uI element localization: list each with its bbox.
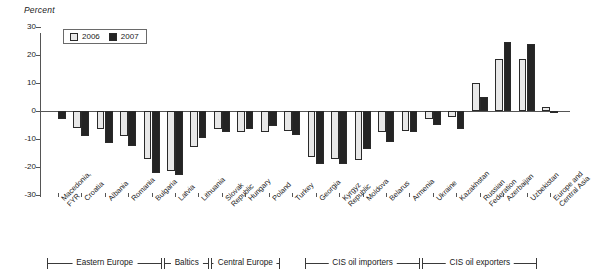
group-bracket-cap-left — [305, 258, 306, 269]
group-bracket-label: CIS oil exporters — [446, 257, 515, 269]
y-tick-mark — [36, 55, 41, 56]
legend-item-2006: 2006 — [70, 33, 100, 41]
group-bracket-cap-right — [279, 258, 280, 269]
y-tick-label: -20 — [24, 163, 36, 171]
group-bracket: CIS oil importers — [305, 256, 420, 272]
group-bracket: Baltics — [164, 256, 209, 272]
legend-item-2007: 2007 — [109, 33, 139, 41]
group-bracket-cap-right — [161, 258, 162, 269]
y-axis-tick-labels: 3020100-10-20-30 — [14, 33, 36, 197]
bar — [120, 111, 128, 136]
bar — [519, 59, 527, 111]
bar — [316, 111, 324, 164]
bar — [542, 107, 550, 111]
bar — [128, 111, 136, 146]
group-bracket-label: Central Europe — [214, 257, 277, 269]
bar — [152, 111, 160, 173]
group-bracket-cap-right — [536, 258, 537, 269]
bar — [550, 111, 558, 113]
bar — [448, 111, 456, 117]
bar — [73, 111, 81, 128]
bar — [269, 111, 277, 126]
y-axis-line — [40, 33, 41, 197]
bar — [214, 111, 222, 129]
legend-label-2007: 2007 — [121, 33, 139, 41]
group-bracket-label: Baltics — [171, 257, 203, 269]
bar — [58, 111, 66, 119]
bar — [308, 111, 316, 157]
bar — [386, 111, 394, 142]
bar — [339, 111, 347, 164]
bar — [292, 111, 300, 135]
bar — [237, 111, 245, 132]
y-tick-mark — [36, 167, 41, 168]
legend-swatch-2007 — [109, 33, 117, 41]
bar — [355, 111, 363, 160]
x-tick-mark — [152, 193, 153, 197]
x-axis-category-labels: Macedonia,FYRCroatiaAlbaniaRomaniaBulgar… — [40, 197, 570, 253]
bar — [472, 83, 480, 111]
y-tick-mark — [36, 83, 41, 84]
group-bracket: Eastern Europe — [47, 256, 162, 272]
bar — [199, 111, 207, 138]
bar — [97, 111, 105, 129]
group-bracket-cap-left — [164, 258, 165, 269]
bar — [495, 59, 503, 111]
group-bracket-label: CIS oil importers — [328, 257, 397, 269]
bar — [167, 111, 175, 171]
bar — [222, 111, 230, 132]
group-bracket: CIS oil exporters — [422, 256, 537, 272]
group-bracket: Central Europe — [211, 256, 279, 272]
group-brackets: Eastern EuropeBalticsCentral EuropeCIS o… — [40, 256, 570, 274]
bar — [81, 111, 89, 136]
legend-swatch-2006 — [70, 33, 78, 41]
bar — [425, 111, 433, 119]
group-bracket-cap-right — [208, 258, 209, 269]
bar — [284, 111, 292, 131]
y-tick-mark — [36, 195, 41, 196]
group-bracket-cap-left — [422, 258, 423, 269]
bar — [480, 97, 488, 111]
bar — [331, 111, 339, 159]
bar — [144, 111, 152, 159]
y-tick-label: 20 — [27, 51, 36, 59]
group-bracket-label: Eastern Europe — [72, 257, 137, 269]
bar — [190, 111, 198, 147]
y-tick-label: -10 — [24, 135, 36, 143]
y-tick-mark — [36, 139, 41, 140]
y-axis-title: Percent — [24, 5, 55, 15]
bar — [246, 111, 254, 129]
bar — [402, 111, 410, 131]
group-bracket-cap-left — [211, 258, 212, 269]
bar — [410, 111, 418, 132]
legend: 2006 2007 — [63, 29, 147, 44]
y-tick-label: 10 — [27, 79, 36, 87]
group-bracket-cap-right — [419, 258, 420, 269]
y-tick-mark — [36, 111, 41, 112]
plot-area — [40, 33, 570, 197]
bar — [457, 111, 465, 129]
group-bracket-cap-left — [47, 258, 48, 269]
y-tick-label: -30 — [24, 191, 36, 199]
y-tick-mark — [36, 27, 41, 28]
bar — [433, 111, 441, 125]
bar — [105, 111, 113, 143]
bar — [504, 42, 512, 111]
bar — [175, 111, 183, 175]
bar — [261, 111, 269, 132]
bar — [527, 44, 535, 111]
bar — [378, 111, 386, 132]
y-tick-label: 30 — [27, 23, 36, 31]
bar — [363, 111, 371, 149]
legend-label-2006: 2006 — [82, 33, 100, 41]
